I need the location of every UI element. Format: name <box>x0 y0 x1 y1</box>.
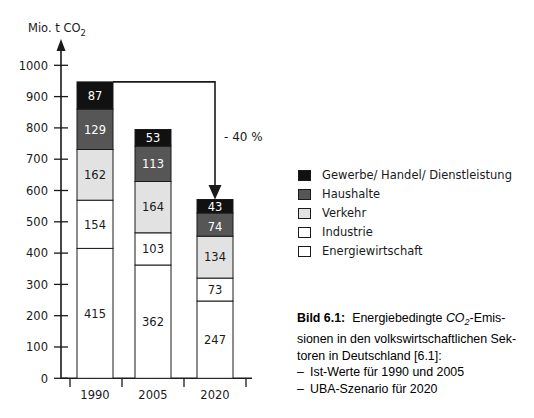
bar-segment-value: 415 <box>84 307 106 321</box>
caption-bullet-1: – Ist-Werte für 1990 und 2005 <box>297 364 531 381</box>
legend-label-industrie: Industrie <box>322 227 373 239</box>
y-tick-label: 300 <box>26 278 48 292</box>
caption-co2-italic: CO <box>446 311 465 325</box>
bar-2020[interactable]: 247 73 134 74 43 <box>197 200 233 379</box>
caption-dash-icon: – <box>297 364 310 381</box>
legend-swatch-gewerbe-icon <box>298 170 311 181</box>
bar-segment-value: 73 <box>208 283 223 297</box>
y-tick-label: 1000 <box>19 59 48 73</box>
bar-1990[interactable]: 415 154 162 129 87 <box>77 82 113 378</box>
bar-segment-value: 103 <box>142 242 164 256</box>
legend-item-energiewirtschaft[interactable]: Energiewirtschaft <box>298 242 530 261</box>
caption-bullet-2: – UBA-Szenario für 2020 <box>297 381 531 398</box>
bar-segment-value: 154 <box>84 218 106 232</box>
caption-text-b: -Emis- <box>470 311 506 325</box>
caption-dash-icon: – <box>297 381 310 398</box>
bar-segment-value: 43 <box>208 200 223 214</box>
y-axis-label-text: Mio. t CO <box>28 21 81 35</box>
bar-segment-value: 162 <box>84 168 106 182</box>
caption-text-a: Energiebedingte <box>352 311 446 325</box>
y-tick-label: 800 <box>26 121 48 135</box>
legend-item-verkehr[interactable]: Verkehr <box>298 204 530 223</box>
bar-segment-value: 164 <box>142 200 164 214</box>
caption-bullet-1-text: Ist-Werte für 1990 und 2005 <box>310 364 464 381</box>
reduction-arrowhead <box>209 185 222 200</box>
bar-segment-value: 53 <box>146 131 161 145</box>
bar-segment-value: 74 <box>208 220 223 234</box>
legend-item-industrie[interactable]: Industrie <box>298 223 530 242</box>
legend-swatch-industrie-icon <box>298 227 311 238</box>
chart-figure: Mio. t CO2 1000 900 800 700 600 500 400 <box>0 0 290 418</box>
y-tick-label: 700 <box>26 152 48 166</box>
bar-segment-value: 129 <box>84 123 106 137</box>
caption-figure-number: Bild 6.1: <box>297 311 345 325</box>
legend-swatch-energiewirtschaft-icon <box>298 246 311 257</box>
legend-label-energiewirtschaft: Energiewirtschaft <box>322 246 423 258</box>
caption-line-2: sionen in den volkswirtschaftlichen Sek- <box>297 331 531 348</box>
bar-segment-value: 362 <box>142 315 164 329</box>
y-tick-label: 100 <box>26 340 48 354</box>
legend-label-verkehr: Verkehr <box>322 208 366 220</box>
bar-segment-value: 113 <box>142 157 164 171</box>
y-tick-label: 900 <box>26 90 48 104</box>
legend-swatch-verkehr-icon <box>298 208 311 219</box>
y-tick-label: 600 <box>26 184 48 198</box>
legend-label-haushalte: Haushalte <box>322 189 380 201</box>
bar-segment-value: 134 <box>204 250 226 264</box>
chart-legend: Gewerbe/ Handel/ Dienstleistung Haushalt… <box>298 166 530 261</box>
y-axis-label-subscript: 2 <box>81 28 86 38</box>
y-tick-label: 400 <box>26 246 48 260</box>
legend-label-gewerbe: Gewerbe/ Handel/ Dienstleistung <box>322 170 512 182</box>
x-tick-label-1990: 1990 <box>80 388 109 402</box>
figure-caption: Bild 6.1:Energiebedingte CO2-Emis- sione… <box>297 310 531 397</box>
legend-item-gewerbe[interactable]: Gewerbe/ Handel/ Dienstleistung <box>298 166 530 185</box>
x-axis: 1990 2005 2020 <box>61 378 252 402</box>
y-tick-label: 0 <box>41 372 48 386</box>
reduction-percentage-label: - 40 % <box>224 130 263 144</box>
y-axis <box>57 39 66 378</box>
caption-bullet-2-text: UBA-Szenario für 2020 <box>310 381 437 398</box>
y-tick-label: 200 <box>26 309 48 323</box>
bar-segment-value: 247 <box>204 333 226 347</box>
y-tick-label: 500 <box>26 215 48 229</box>
legend-item-haushalte[interactable]: Haushalte <box>298 185 530 204</box>
x-tick-label-2005: 2005 <box>138 388 167 402</box>
x-tick-label-2020: 2020 <box>200 388 229 402</box>
y-axis-arrowhead <box>57 39 66 51</box>
y-axis-label: Mio. t CO2 <box>28 21 86 38</box>
caption-line-3: toren in Deutschland [6.1]: <box>297 348 531 365</box>
legend-swatch-haushalte-icon <box>298 189 311 200</box>
bar-segment-value: 87 <box>88 89 103 103</box>
stacked-bar-chart: Mio. t CO2 1000 900 800 700 600 500 400 <box>0 0 290 418</box>
caption-line-1: Bild 6.1:Energiebedingte CO2-Emis- <box>297 310 531 331</box>
bar-2005[interactable]: 362 103 164 113 53 <box>135 130 171 379</box>
